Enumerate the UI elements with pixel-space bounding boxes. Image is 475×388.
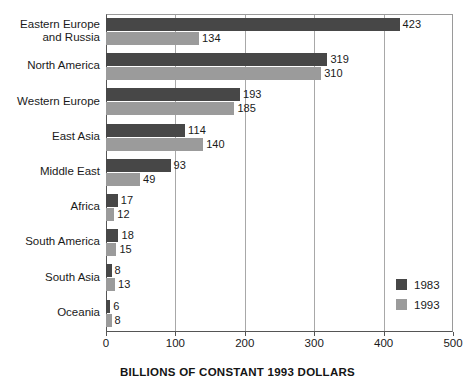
bar-chart: 4231343193101931851141409349171218158136… <box>0 0 475 388</box>
bar <box>106 32 199 45</box>
category-labels: Eastern Europe and RussiaNorth AmericaWe… <box>0 14 100 332</box>
bar-group: 423134 <box>106 18 453 47</box>
bar-value-label: 134 <box>202 32 221 45</box>
x-tick-label: 200 <box>235 336 254 350</box>
bar <box>106 102 234 115</box>
x-tick-label: 300 <box>305 336 324 350</box>
bar-value-label: 13 <box>118 278 130 291</box>
bar-value-label: 6 <box>113 300 119 313</box>
bar-value-label: 18 <box>121 229 133 242</box>
category-label: South Asia <box>0 271 100 285</box>
bar <box>106 88 240 101</box>
legend-item-1993: 1993 <box>396 297 440 312</box>
x-tick-mark <box>314 332 315 336</box>
bar-value-label: 49 <box>143 173 155 186</box>
bar-group: 193185 <box>106 88 453 117</box>
legend-swatch-1983 <box>396 279 407 290</box>
bar <box>106 194 118 207</box>
category-label: North America <box>0 59 100 73</box>
x-tick-mark <box>245 332 246 336</box>
x-axis-ticks: 0100200300400500 <box>0 336 475 354</box>
bar <box>106 67 321 80</box>
bar <box>106 208 114 221</box>
x-tick-mark <box>106 332 107 336</box>
bar-value-label: 8 <box>115 264 121 277</box>
bar <box>106 173 140 186</box>
bar <box>106 138 203 151</box>
bar-group: 1712 <box>106 194 453 223</box>
bar <box>106 314 112 327</box>
bar <box>106 264 112 277</box>
x-tick-mark <box>453 332 454 336</box>
bar <box>106 18 400 31</box>
bar-value-label: 310 <box>324 67 343 80</box>
bar-value-label: 193 <box>243 88 262 101</box>
x-tick-label: 500 <box>443 336 462 350</box>
bar-group: 1815 <box>106 229 453 258</box>
bar-group: 9349 <box>106 159 453 188</box>
bar-value-label: 8 <box>115 314 121 327</box>
bar <box>106 229 118 242</box>
bar-value-label: 17 <box>121 194 133 207</box>
x-tick-label: 0 <box>103 336 109 350</box>
category-label: Africa <box>0 200 100 214</box>
bar-value-label: 140 <box>206 138 225 151</box>
legend-item-1983: 1983 <box>396 277 440 292</box>
legend-label-1983: 1983 <box>414 279 440 291</box>
x-tick-mark <box>175 332 176 336</box>
category-label: East Asia <box>0 130 100 144</box>
category-label: Eastern Europe and Russia <box>0 18 100 45</box>
x-tick-label: 100 <box>166 336 185 350</box>
bar-value-label: 185 <box>237 102 256 115</box>
bar <box>106 243 116 256</box>
bar <box>106 159 171 172</box>
bar-value-label: 423 <box>403 18 422 31</box>
bar <box>106 278 115 291</box>
bar <box>106 53 327 66</box>
bar-value-label: 93 <box>174 159 186 172</box>
category-label: South America <box>0 235 100 249</box>
bar-value-label: 12 <box>117 208 129 221</box>
x-axis-title: BILLIONS OF CONSTANT 1993 DOLLARS <box>0 366 475 378</box>
legend-swatch-1993 <box>396 299 407 310</box>
legend-label-1993: 1993 <box>414 299 440 311</box>
category-label: Oceania <box>0 306 100 320</box>
bar-group: 114140 <box>106 124 453 153</box>
bar-value-label: 114 <box>188 124 206 137</box>
x-tick-mark <box>384 332 385 336</box>
legend: 1983 1993 <box>396 277 440 317</box>
bar-value-label: 15 <box>119 243 131 256</box>
bar-value-label: 319 <box>330 53 349 66</box>
bar-group: 319310 <box>106 53 453 82</box>
category-label: Western Europe <box>0 95 100 109</box>
x-tick-label: 400 <box>374 336 393 350</box>
bar <box>106 300 110 313</box>
category-label: Middle East <box>0 165 100 179</box>
bar <box>106 124 185 137</box>
